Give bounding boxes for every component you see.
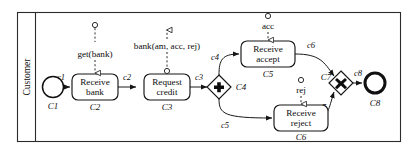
- gateway-c4-parallel[interactable]: C4: [207, 75, 247, 99]
- bpmn-diagram-svg: Customer c1 c2 c3 c4 c5 c6 c7: [0, 0, 415, 151]
- end-event-circle: [365, 73, 385, 93]
- task-c2-label-line2: bank: [86, 87, 104, 97]
- task-c2-receive-bank[interactable]: Receive bank C2: [72, 74, 118, 112]
- task-c2-label-line1: Receive: [80, 77, 110, 87]
- message-label-acc: acc: [262, 21, 274, 31]
- message-end-circle-icon-m2: [164, 68, 169, 73]
- task-c2-id-label: C2: [90, 102, 101, 112]
- end-event-id-label: C8: [370, 98, 381, 108]
- message-start-circle-icon: [92, 22, 97, 27]
- gateway-c7-id-label: C7: [321, 72, 332, 82]
- sequence-flow-label-c4: c4: [211, 52, 220, 62]
- message-flow-bank-am-acc-rej: bank(am, acc, rej): [134, 30, 200, 74]
- start-event-circle: [43, 77, 64, 98]
- start-event-c1[interactable]: C1: [43, 77, 64, 112]
- message-label-get-bank: get(bank): [77, 49, 112, 59]
- task-c3-label-line1: Request: [152, 77, 182, 87]
- task-c5-label-line2: accept: [256, 54, 280, 64]
- task-c6-label-line1: Receive: [286, 108, 316, 118]
- pool-lane-label: Customer: [22, 58, 32, 96]
- task-c6-receive-reject[interactable]: Receive reject C6: [274, 105, 328, 142]
- sequence-flow-label-c3: c3: [195, 72, 203, 82]
- sequence-flow-label-c6: c6: [307, 40, 316, 50]
- message-flow-get-bank: get(bank): [77, 22, 112, 73]
- message-label-bank: bank(am, acc, rej): [134, 41, 200, 51]
- task-c6-label-line2: reject: [291, 118, 312, 128]
- task-c5-receive-accept[interactable]: Receive accept C5: [241, 41, 295, 79]
- end-event-c8[interactable]: C8: [365, 73, 385, 108]
- sequence-flow-label-c8: c8: [354, 68, 363, 78]
- sequence-flow-c4: [219, 54, 239, 75]
- task-c3-request-credit[interactable]: Request credit C3: [144, 74, 190, 112]
- bpmn-diagram-canvas: Customer c1 c2 c3 c4 c5 c6 c7: [0, 0, 415, 151]
- start-event-id-label: C1: [48, 101, 59, 111]
- message-flow-acc: acc: [262, 13, 274, 40]
- task-c5-label-line1: Receive: [253, 44, 283, 54]
- message-flow-rej: rej: [296, 77, 306, 104]
- message-start-circle-icon-m3: [265, 13, 270, 18]
- task-c3-id-label: C3: [162, 102, 173, 112]
- task-c3-label-line2: credit: [157, 87, 178, 97]
- sequence-flow-label-c5: c5: [221, 120, 230, 130]
- task-c5-id-label: C5: [263, 69, 274, 79]
- task-c6-id-label: C6: [296, 132, 307, 142]
- sequence-flow-label-c2: c2: [123, 72, 132, 82]
- gateway-c4-id-label: C4: [236, 82, 247, 92]
- gateway-c7-exclusive[interactable]: C7: [321, 71, 353, 95]
- sequence-flow-c5: [219, 99, 272, 118]
- message-label-rej: rej: [296, 85, 306, 95]
- message-start-circle-icon-m4: [298, 77, 303, 82]
